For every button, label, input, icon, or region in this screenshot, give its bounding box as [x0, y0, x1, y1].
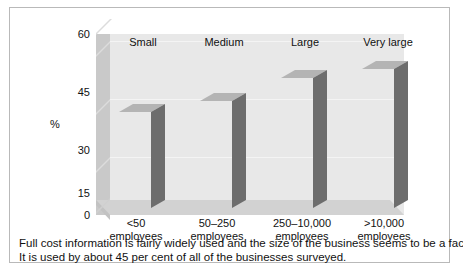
bar-medium-3d [200, 93, 246, 208]
group-top-label-large: Large [267, 36, 343, 48]
bar-medium[interactable] [200, 101, 232, 208]
figure-caption: Full cost information is fairly widely u… [19, 236, 439, 264]
y-tick-45: 45 [54, 87, 90, 98]
group-top-label-medium: Medium [186, 36, 262, 48]
category-large-line1: 250–10,000 [259, 217, 345, 230]
bar-very-large-3d [362, 61, 408, 208]
gridline-30 [110, 99, 404, 100]
category-very-large-line1: >10,000 [344, 217, 424, 230]
y-tick-15: 15 [54, 188, 90, 199]
bar-small-3d [119, 104, 165, 208]
group-top-label-small: Small [105, 36, 181, 48]
y-tick-30: 30 [54, 145, 90, 156]
bar-large-3d [281, 70, 327, 208]
gridline-wall-connectors [96, 28, 112, 218]
bar-small[interactable] [119, 112, 151, 208]
bar-very-large[interactable] [362, 69, 394, 208]
group-top-label-very-large: Very large [348, 36, 428, 48]
category-small-line1: <50 [98, 217, 174, 230]
caption-line-2: It is used by about 45 per cent of all o… [19, 250, 439, 264]
bar-large[interactable] [281, 78, 313, 208]
category-medium-line1: 50–250 [179, 217, 255, 230]
bar-chart: % 60 45 30 15 0 [10, 8, 449, 223]
y-tick-60: 60 [54, 29, 90, 40]
y-tick-0: 0 [54, 210, 90, 221]
caption-line-1: Full cost information is fairly widely u… [19, 236, 439, 250]
y-axis-ticks: 60 45 30 15 0 [48, 8, 90, 223]
screenshot-root: % 60 45 30 15 0 [0, 0, 463, 270]
